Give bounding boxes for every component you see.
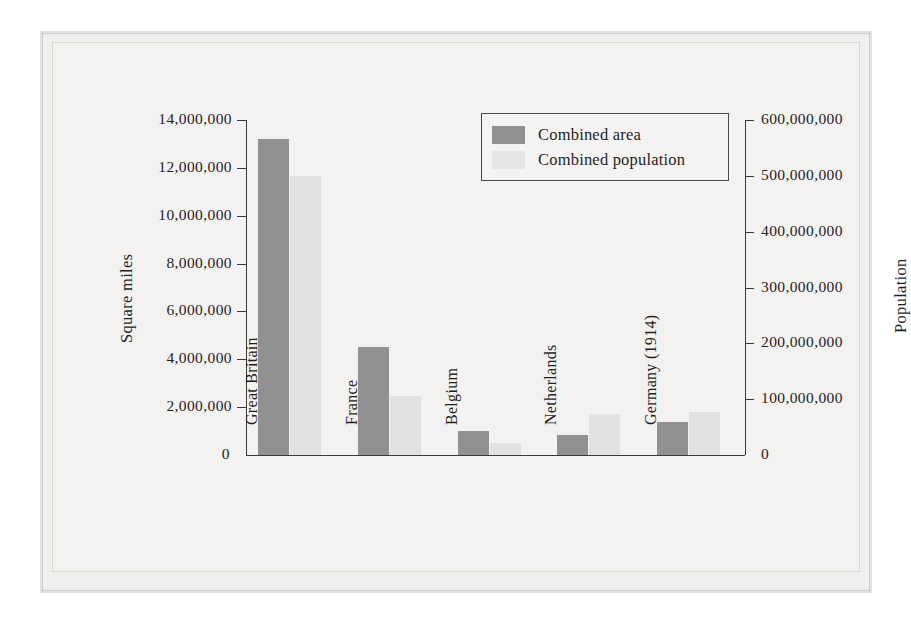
- right-tick-label: 600,000,000: [761, 110, 843, 128]
- left-tick-label: 4,000,000: [166, 349, 232, 367]
- bar-combined-area: [557, 435, 588, 455]
- plot-area: 14,000,000 12,000,000 10,000,000 8,000,0…: [246, 120, 745, 455]
- bar-combined-area: [358, 347, 389, 455]
- left-tick-label: 2,000,000: [166, 397, 232, 415]
- category-label: France: [343, 380, 361, 425]
- right-tick-label: 400,000,000: [761, 222, 843, 240]
- bar-combined-population: [390, 396, 421, 455]
- bar-combined-area: [258, 139, 289, 455]
- bar-combined-population: [490, 443, 521, 455]
- right-tick-label: 300,000,000: [761, 278, 843, 296]
- bar-combined-population: [689, 412, 720, 455]
- left-tick-label-zero: 0: [222, 445, 230, 463]
- right-tick-label-zero: 0: [761, 445, 769, 463]
- right-tick-label: 100,000,000: [761, 389, 843, 407]
- left-tick-label: 12,000,000: [158, 158, 232, 176]
- right-axis-title: Population: [891, 258, 911, 333]
- category-label: Netherlands: [542, 344, 560, 425]
- right-tick-label: 500,000,000: [761, 166, 843, 184]
- left-axis-title: Square miles: [117, 254, 137, 343]
- category-label: Belgium: [443, 368, 461, 425]
- category-label: Great Britain: [243, 337, 261, 425]
- left-tick-label: 10,000,000: [158, 206, 232, 224]
- bar-combined-area: [657, 422, 688, 456]
- bar-combined-population: [290, 176, 321, 455]
- right-tick-label: 200,000,000: [761, 333, 843, 351]
- axis-baseline: [246, 455, 745, 456]
- left-tick-label: 6,000,000: [166, 301, 232, 319]
- left-tick-label: 14,000,000: [158, 110, 232, 128]
- bar-combined-population: [589, 414, 620, 455]
- figure-plate: Square miles Population Combined area Co…: [52, 42, 860, 572]
- category-label: Germany (1914): [642, 315, 660, 425]
- bar-combined-area: [458, 431, 489, 455]
- left-tick-label: 8,000,000: [166, 254, 232, 272]
